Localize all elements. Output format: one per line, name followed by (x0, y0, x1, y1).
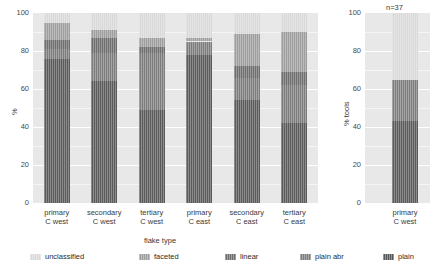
flake-type-panel: 020406080100 % primaryC westsecondaryC w… (0, 0, 325, 251)
bar-segment-plain-abr[interactable] (234, 78, 260, 101)
legend-swatch-plain-abr (300, 254, 311, 260)
y-tick-label: 100 (3, 9, 29, 17)
gridline-minor (33, 146, 318, 147)
y-tick-label: 60 (3, 85, 29, 93)
bar-segment-linear[interactable] (44, 40, 70, 50)
legend-swatch-faceted (139, 254, 150, 260)
stacked-bar[interactable] (91, 13, 117, 203)
chart-figure: 020406080100 % primaryC westsecondaryC w… (0, 0, 430, 271)
legend-swatch-unclassified (30, 254, 41, 260)
x-tick-label-line: C west (81, 217, 129, 226)
x-tick-label-line: primary (33, 208, 81, 217)
gridline-minor (33, 70, 318, 71)
legend-label: plain abr (315, 251, 344, 263)
legend-label: unclassified (45, 251, 84, 263)
gridline (33, 127, 318, 128)
bar-segment-unclassified[interactable] (186, 13, 212, 38)
gridline (33, 89, 318, 90)
stacked-bar[interactable] (186, 13, 212, 203)
x-tick-label-line: C east (271, 217, 319, 226)
legend-swatch-plain (383, 254, 394, 260)
bar-segment-unclassified[interactable] (139, 13, 165, 38)
x-tick-label-line: primary (365, 208, 430, 217)
x-tick-label-line: tertiary (271, 208, 319, 217)
gridline (33, 165, 318, 166)
legend-label: faceted (154, 251, 179, 263)
bar-segment-plain-abr[interactable] (44, 49, 70, 59)
bar-segment-plain-abr[interactable] (392, 80, 418, 122)
bar-segment-linear[interactable] (139, 47, 165, 53)
gridline-minor (33, 108, 318, 109)
x-tick-label-line: C west (33, 217, 81, 226)
bar-segment-plain[interactable] (186, 55, 212, 203)
bar-segment-faceted[interactable] (234, 34, 260, 66)
bar-segment-linear[interactable] (234, 66, 260, 77)
x-tick-label: primaryC west (33, 208, 81, 226)
y-tick-label: 60 (335, 85, 361, 93)
bar-segment-unclassified[interactable] (91, 13, 117, 30)
x-axis-title: flake type (144, 236, 176, 245)
tools-panel: 020406080100 % tools n=37 primaryC west (325, 0, 430, 251)
x-tick-label-line: C west (365, 217, 430, 226)
y-axis-title-right: % tools (342, 101, 351, 126)
legend-label: plain (398, 251, 414, 263)
y-tick-label: 0 (335, 199, 361, 207)
x-tick-label-line: secondary (81, 208, 129, 217)
legend: unclassifiedfacetedlinearplain abrplainu… (0, 251, 430, 271)
bar-segment-plain[interactable] (234, 100, 260, 203)
stacked-bar[interactable] (234, 13, 260, 203)
bar-segment-faceted[interactable] (44, 23, 70, 40)
y-tick-label: 100 (335, 9, 361, 17)
stacked-bar[interactable] (44, 13, 70, 203)
x-tick-label: secondaryC east (223, 208, 271, 226)
gridline (33, 51, 318, 52)
y-tick-label: 0 (3, 199, 29, 207)
bar-segment-plain-abr[interactable] (186, 42, 212, 55)
y-tick-label: 80 (3, 47, 29, 55)
x-tick-label: primaryC east (176, 208, 224, 226)
bar-segment-faceted[interactable] (91, 30, 117, 38)
bar-segment-plain-abr[interactable] (281, 85, 307, 123)
sample-size-label: n=37 (386, 3, 403, 12)
stacked-bar[interactable] (281, 13, 307, 203)
x-tick-label: primaryC west (365, 208, 430, 226)
bar-segment-unclassified[interactable] (44, 13, 70, 23)
bar-segment-faceted[interactable] (281, 32, 307, 72)
x-tick-label-line: C east (176, 217, 224, 226)
bar-segment-faceted[interactable] (139, 38, 165, 48)
y-tick-label: 80 (335, 47, 361, 55)
bar-segment-plain[interactable] (44, 59, 70, 203)
bar-segment-linear[interactable] (281, 72, 307, 85)
legend-label: linear (240, 251, 258, 263)
bar-segment-plain[interactable] (392, 121, 418, 203)
bar-segment-linear[interactable] (91, 38, 117, 53)
gridline-minor (33, 32, 318, 33)
bar-segment-plain[interactable] (281, 123, 307, 203)
bar-segment-plain[interactable] (139, 110, 165, 203)
bar-segment-unclassified[interactable] (281, 13, 307, 32)
x-tick-label: tertiaryC east (271, 208, 319, 226)
x-tick-label: tertiaryC west (128, 208, 176, 226)
x-tick-label-line: C east (223, 217, 271, 226)
y-axis-title-left: % (10, 108, 19, 115)
gridline-minor (33, 184, 318, 185)
y-tick-label: 20 (3, 161, 29, 169)
bar-segment-plain[interactable] (91, 81, 117, 203)
stacked-bar[interactable] (139, 13, 165, 203)
stacked-bar[interactable] (392, 13, 418, 203)
bar-segment-unclassified[interactable] (234, 13, 260, 34)
bar-segment-faceted[interactable] (186, 38, 212, 42)
legend-swatch-linear (225, 254, 236, 260)
x-tick-label-line: C west (128, 217, 176, 226)
bar-segment-plain-abr[interactable] (139, 53, 165, 110)
y-tick-label: 40 (3, 123, 29, 131)
bar-segment-unclassified[interactable] (392, 13, 418, 80)
bar-segment-plain-abr[interactable] (91, 53, 117, 82)
x-tick-label-line: secondary (223, 208, 271, 217)
x-tick-label-line: tertiary (128, 208, 176, 217)
y-tick-label: 20 (335, 161, 361, 169)
x-tick-label-line: primary (176, 208, 224, 217)
x-tick-label: secondaryC west (81, 208, 129, 226)
